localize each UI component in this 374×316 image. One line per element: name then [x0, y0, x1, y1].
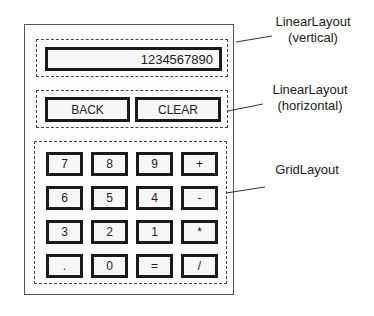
- annotation-vertical: LinearLayout (vertical): [268, 14, 358, 46]
- annotation-lines: [0, 0, 374, 316]
- annotation-horizontal-title: LinearLayout: [262, 82, 358, 98]
- annotation-grid-title: GridLayout: [262, 162, 352, 178]
- annotation-vertical-subtitle: (vertical): [268, 30, 358, 46]
- annotation-horizontal: LinearLayout (horizontal): [262, 82, 358, 114]
- annotation-grid: GridLayout: [262, 162, 352, 178]
- annotation-vertical-title: LinearLayout: [268, 14, 358, 30]
- annotation-horizontal-subtitle: (horizontal): [262, 98, 358, 114]
